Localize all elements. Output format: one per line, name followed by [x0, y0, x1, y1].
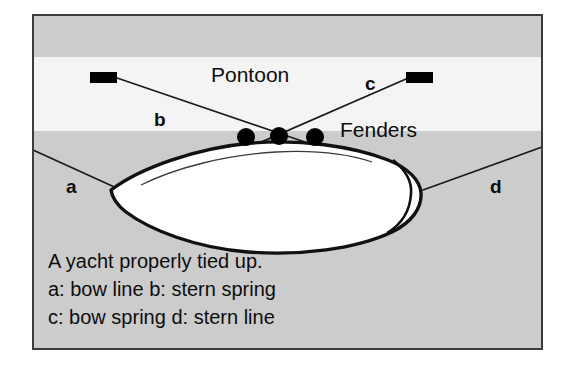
- rope-label-b: b: [154, 109, 166, 130]
- caption-line-1: A yacht properly tied up.: [48, 250, 263, 272]
- caption-line-3: c: bow spring d: stern line: [48, 306, 275, 328]
- water-band-upper: [33, 15, 542, 58]
- caption-line-2: a: bow line b: stern spring: [48, 278, 276, 300]
- cleat-left-icon: [90, 72, 117, 83]
- fenders-group: [237, 127, 324, 146]
- yacht-mooring-diagram: Pontoon Fenders a b c d A yacht properly…: [0, 0, 573, 369]
- figure-root: Pontoon Fenders a b c d A yacht properly…: [0, 0, 573, 369]
- fender-aft: [306, 128, 324, 146]
- caption-block: A yacht properly tied up. a: bow line b:…: [48, 250, 276, 328]
- cleat-right-icon: [406, 72, 433, 83]
- rope-label-a: a: [66, 176, 77, 197]
- rope-label-d: d: [490, 176, 502, 197]
- fender-midship: [270, 127, 288, 145]
- rope-label-c: c: [365, 73, 376, 94]
- pontoon-label: Pontoon: [211, 63, 289, 86]
- fender-forward: [237, 128, 255, 146]
- fenders-label: Fenders: [340, 118, 417, 141]
